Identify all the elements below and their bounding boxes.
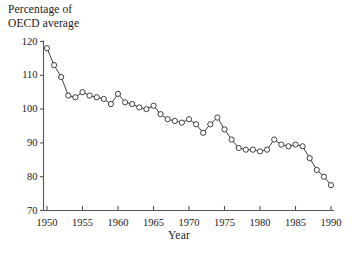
- x-tick-label: 1950: [30, 218, 64, 229]
- data-point: [73, 95, 78, 100]
- data-point: [137, 105, 142, 110]
- data-point: [208, 122, 213, 127]
- x-tick-label: 1970: [172, 218, 206, 229]
- data-point: [286, 144, 291, 149]
- data-point: [243, 147, 248, 152]
- data-point: [215, 115, 220, 120]
- axis-lines: [44, 41, 335, 211]
- data-point: [250, 147, 255, 152]
- tick-marks: [40, 42, 331, 211]
- data-point: [307, 156, 312, 161]
- data-point: [101, 96, 106, 101]
- data-point: [222, 127, 227, 132]
- y-tick-label: 110: [12, 70, 38, 81]
- data-point: [80, 90, 85, 95]
- y-tick-label: 90: [12, 138, 38, 149]
- plot-area: [0, 0, 358, 253]
- x-tick-label: 1955: [66, 218, 100, 229]
- data-point: [59, 74, 64, 79]
- data-point: [272, 137, 277, 142]
- data-point: [321, 174, 326, 179]
- data-point: [151, 103, 156, 108]
- x-tick-label: 1990: [314, 218, 348, 229]
- data-point: [314, 167, 319, 172]
- data-point: [108, 101, 113, 106]
- x-axis-title: Year: [0, 229, 358, 241]
- data-point: [186, 117, 191, 122]
- x-tick-label: 1985: [279, 218, 313, 229]
- y-tick-label: 70: [12, 206, 38, 217]
- data-point: [179, 120, 184, 125]
- chart-figure: Percentage of OECD average 7080901001101…: [0, 0, 358, 253]
- data-point: [300, 144, 305, 149]
- x-tick-label: 1965: [137, 218, 171, 229]
- data-point: [229, 137, 234, 142]
- data-point: [265, 147, 270, 152]
- data-point: [66, 93, 71, 98]
- x-tick-label: 1960: [101, 218, 135, 229]
- data-point: [165, 117, 170, 122]
- data-point: [115, 91, 120, 96]
- y-tick-label: 100: [12, 104, 38, 115]
- data-point: [87, 93, 92, 98]
- data-point: [123, 100, 128, 105]
- data-point: [328, 183, 333, 188]
- data-point: [44, 46, 49, 51]
- y-tick-label: 120: [12, 37, 38, 48]
- data-point: [172, 118, 177, 123]
- data-point: [194, 122, 199, 127]
- data-point: [293, 142, 298, 147]
- data-point: [201, 130, 206, 135]
- x-tick-label: 1980: [243, 218, 277, 229]
- x-tick-label: 1975: [208, 218, 242, 229]
- data-point: [158, 112, 163, 117]
- data-point: [279, 142, 284, 147]
- data-point: [257, 149, 262, 154]
- data-point: [130, 101, 135, 106]
- data-point: [52, 63, 57, 68]
- data-point-markers: [44, 46, 333, 188]
- y-tick-label: 80: [12, 172, 38, 183]
- data-point: [144, 107, 149, 112]
- data-point: [94, 95, 99, 100]
- data-point: [236, 145, 241, 150]
